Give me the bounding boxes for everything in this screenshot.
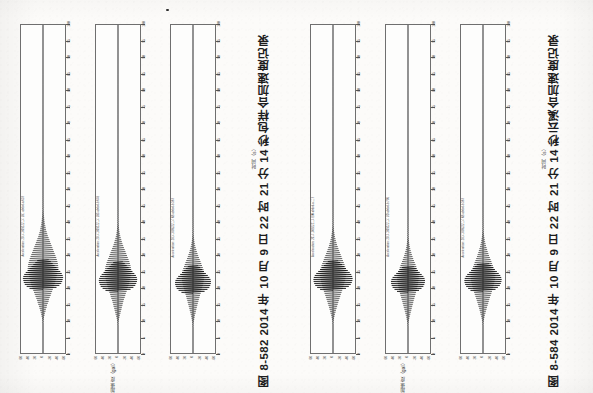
panel-station-label: Acceleration: 20141009222114 LB1 abdcd-a… (23, 196, 26, 257)
waveform-trace (96, 25, 140, 353)
amplitude-tick-labels: 6040200-20-40-60 (460, 356, 506, 370)
time-axis-ticks: 100 95 90 85 80 75 70 65 60 55 50 45 40 … (356, 24, 368, 354)
time-axis-ticks: 100 95 90 85 80 75 70 65 60 55 50 45 40 … (506, 24, 518, 354)
plot-panel[interactable]: Acceleration: 20141009222114 LB5 abdcd-b… (95, 24, 141, 354)
waveform-trace (171, 25, 215, 353)
waveform-trace (461, 25, 505, 353)
panel-station-label: Acceleration: 20141009222114 LB5 abdcd-b… (98, 196, 101, 257)
panel-station-label: Acceleration: 20141009222114 NS abdcd-b.… (463, 198, 466, 257)
time-axis-ticks: 100 95 90 85 80 75 70 65 60 55 50 45 40 … (431, 24, 443, 354)
figure-caption: 图 8-584 2014 年 10 月 9 日 22 时 21 分 14 秒云溪… (548, 34, 560, 387)
waveform-trace (21, 25, 65, 353)
amplitude-tick-labels: 6040200-20-40-60 (310, 356, 356, 370)
panel-station-label: Acceleration: 20141009222114 UD abdcd-b.… (388, 197, 391, 257)
figure-caption: 图 8-582 2014 年 10 月 9 日 22 时 21 分 14 秒包样… (258, 34, 270, 387)
amplitude-tick-labels: 6040200-20-40-60 (95, 356, 141, 370)
stray-scan-speck (166, 9, 169, 11)
plot-panel[interactable]: Acceleration: 20141009222114 EW abdcd-a.… (310, 24, 356, 354)
panel-station-label: Acceleration: 20141009222114 NS abdcd-b.… (173, 198, 176, 257)
scanned-page: Acceleration: 20141009222114 LB1 abdcd-a… (0, 0, 593, 393)
amplitude-tick-labels: 6040200-20-40-60 (20, 356, 66, 370)
plot-panel[interactable]: Acceleration: 20141009222114 LB1 abdcd-a… (20, 24, 66, 354)
plot-panel[interactable]: Acceleration: 20141009222114 NS abdcd-b.… (460, 24, 506, 354)
amplitude-axis-label: 加速度（gal） (402, 360, 407, 393)
amplitude-tick-labels: 6040200-20-40-60 (170, 356, 216, 370)
time-axis-ticks: 100 95 90 85 80 75 70 65 60 55 50 45 40 … (141, 24, 153, 354)
waveform-trace (311, 25, 355, 353)
waveform-trace (386, 25, 430, 353)
panel-station-label: Acceleration: 20141009222114 EW abdcd-a.… (313, 197, 316, 257)
amplitude-axis-label: 加速度（gal） (112, 360, 117, 393)
time-axis-ticks: 100 95 90 85 80 75 70 65 60 55 50 45 40 … (216, 24, 228, 354)
plot-panel[interactable]: Acceleration: 20141009222114 UD abdcd-b.… (385, 24, 431, 354)
time-axis-ticks: 100 95 90 85 80 75 70 65 60 55 50 45 40 … (66, 24, 78, 354)
plot-panel[interactable]: Acceleration: 20141009222114 NS abdcd-b.… (170, 24, 216, 354)
amplitude-tick-labels: 6040200-20-40-60 (385, 356, 431, 370)
